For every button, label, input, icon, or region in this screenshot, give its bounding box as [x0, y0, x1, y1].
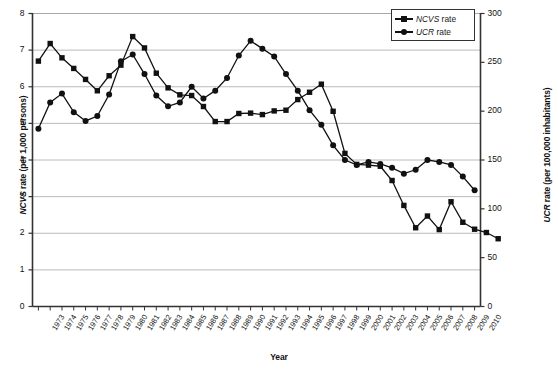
- chart-container: NCVS rate (per 1,000 persons) UCR rate (…: [0, 0, 558, 371]
- legend-marker-circle-icon: [395, 27, 413, 37]
- y-axis-right-rest: rate (per 100,000 inhabitants): [542, 88, 552, 205]
- y-left-tick-label: 0: [3, 301, 25, 311]
- y-right-tick-label: 50: [488, 252, 514, 262]
- chart-legend: NCVS rate UCR rate: [391, 9, 475, 41]
- legend-marker-square-icon: [395, 14, 413, 24]
- y-right-tick-label: 200: [488, 105, 514, 115]
- y-right-tick-label: 250: [488, 56, 514, 66]
- y-left-tick-label: 8: [3, 8, 25, 18]
- y-right-tick-label: 300: [488, 8, 514, 18]
- y-left-tick-label: 6: [3, 81, 25, 91]
- y-right-tick-label: 100: [488, 203, 514, 213]
- y-left-tick-label: 2: [3, 227, 25, 237]
- x-axis-title: Year: [0, 352, 558, 362]
- legend-label-ucr: UCR rate: [416, 27, 451, 37]
- y-right-tick-label: 150: [488, 154, 514, 164]
- legend-item-ncvs: NCVS rate: [395, 12, 471, 25]
- y-axis-right-acronym: UCR: [542, 204, 552, 222]
- y-left-tick-label: 4: [3, 154, 25, 164]
- y-left-tick-label: 1: [3, 264, 25, 274]
- y-left-tick-label: 3: [3, 191, 25, 201]
- y-axis-right-title: UCR rate (per 100,000 inhabitants): [542, 60, 552, 250]
- y-left-tick-label: 7: [3, 44, 25, 54]
- legend-item-ucr: UCR rate: [395, 25, 471, 38]
- legend-label-ncvs: NCVS rate: [416, 14, 456, 24]
- y-axis-left-rest: rate (per 1,000 persons): [18, 96, 28, 192]
- series-ncvs-rate: [36, 34, 501, 242]
- y-right-tick-label: 0: [488, 301, 514, 311]
- series-ucr-rate: [35, 38, 477, 193]
- y-left-tick-label: 5: [3, 117, 25, 127]
